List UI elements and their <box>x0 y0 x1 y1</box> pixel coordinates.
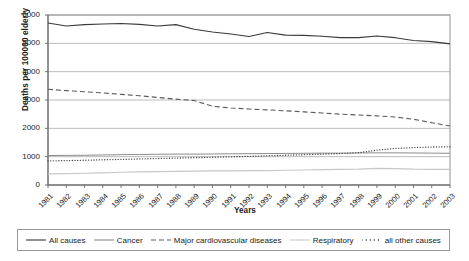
legend-swatch-solid <box>26 236 46 244</box>
legend-item: Respiratory <box>290 236 354 245</box>
legend-swatch-dotted <box>362 236 382 244</box>
chart-legend: All causesCancerMajor cardiovascular dis… <box>17 229 450 251</box>
legend-label: All causes <box>49 236 85 245</box>
legend-item: all other causes <box>362 236 441 245</box>
legend-swatch-dashed <box>151 236 171 244</box>
legend-swatch-solid <box>290 236 310 244</box>
legend-item: All causes <box>26 236 85 245</box>
legend-item: Major cardiovascular diseases <box>151 236 282 245</box>
legend-label: Respiratory <box>313 236 354 245</box>
legend-item: Cancer <box>94 236 143 245</box>
x-axis-title: Years <box>40 206 450 215</box>
legend-swatch-solid <box>94 236 114 244</box>
line-chart: Deaths per 100000 elderly 60005000400030… <box>0 0 469 261</box>
legend-label: Major cardiovascular diseases <box>174 236 282 245</box>
legend-label: Cancer <box>117 236 143 245</box>
legend-label: all other causes <box>385 236 441 245</box>
x-axis-tick-labels: 1981198219831984198519861987198819891990… <box>0 0 469 261</box>
